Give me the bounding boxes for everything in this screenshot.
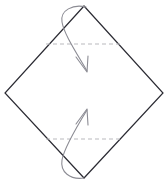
fold-diagram-container: Square sheet with two horizontal crease … — [0, 0, 168, 184]
origami-fold-diagram: Square sheet with two horizontal crease … — [0, 0, 168, 184]
square-sheet-diamond — [5, 6, 163, 178]
